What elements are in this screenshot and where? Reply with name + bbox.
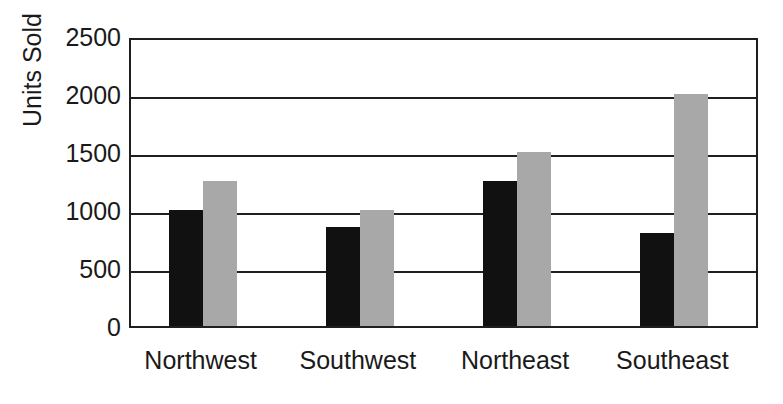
bar bbox=[326, 227, 360, 326]
bar bbox=[203, 181, 237, 326]
bar bbox=[483, 181, 517, 326]
bar-chart: Units Sold 05001000150020002500 Northwes… bbox=[0, 0, 783, 404]
x-axis-category-labels: NorthwestSouthwestNortheastSoutheast bbox=[129, 345, 758, 385]
y-axis-tick-label: 500 bbox=[49, 257, 121, 282]
bar bbox=[640, 233, 674, 326]
y-axis-tick-labels: 05001000150020002500 bbox=[46, 0, 121, 404]
y-axis-tick-label: 0 bbox=[49, 315, 121, 340]
y-axis-tick-label: 1000 bbox=[49, 199, 121, 224]
x-axis-category-label: Southwest bbox=[278, 345, 438, 375]
y-axis-tick-label: 1500 bbox=[49, 141, 121, 166]
bar bbox=[360, 210, 394, 326]
bar bbox=[674, 94, 708, 326]
y-axis-tick-label: 2500 bbox=[49, 25, 121, 50]
bar bbox=[169, 210, 203, 326]
x-axis-category-label: Northwest bbox=[121, 345, 281, 375]
plot-area bbox=[129, 38, 758, 328]
bars-layer bbox=[131, 40, 756, 326]
x-axis-category-label: Southeast bbox=[592, 345, 752, 375]
y-axis-tick-label: 2000 bbox=[49, 83, 121, 108]
bar bbox=[517, 152, 551, 326]
x-axis-category-label: Northeast bbox=[435, 345, 595, 375]
